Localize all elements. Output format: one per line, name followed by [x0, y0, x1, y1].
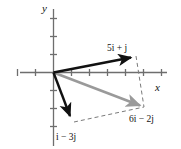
label-resultant: 6i − 2j: [129, 114, 154, 124]
vector-diagram: y x 5i + j 6i − 2j i − 3j: [0, 0, 181, 149]
vector-diagram-canvas: y x 5i + j 6i − 2j i − 3j: [0, 0, 181, 149]
y-axis-label: y: [41, 2, 47, 14]
label-vector-a: 5i + j: [107, 43, 127, 53]
x-axis-label: x: [154, 81, 160, 93]
figure-background: [0, 0, 181, 149]
label-vector-b: i − 3j: [56, 132, 76, 142]
